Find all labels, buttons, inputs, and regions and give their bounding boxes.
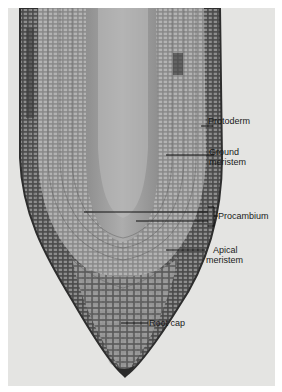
root-tip-illustration [8, 8, 275, 386]
label-procambium: Procambium [218, 211, 269, 221]
label-root-cap: Root cap [149, 318, 185, 328]
label-apical-meristem-line2: meristem [206, 255, 243, 265]
label-ground-meristem-line1: Ground [209, 147, 239, 157]
root-tip-micrograph: Protoderm Ground meristem Procambium Api… [8, 8, 275, 386]
label-apical-meristem-line1: Apical [213, 245, 238, 255]
label-protoderm: Protoderm [208, 116, 250, 126]
label-ground-meristem-line2: meristem [209, 157, 246, 167]
